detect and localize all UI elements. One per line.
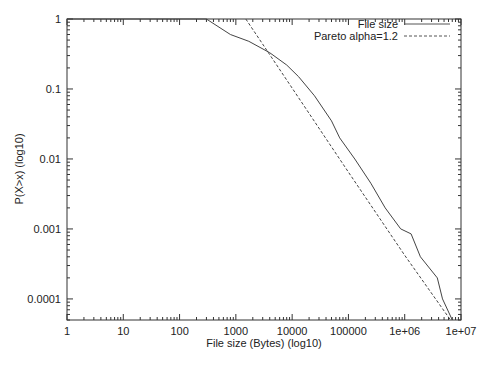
y-tick-label: 1 <box>55 13 61 25</box>
axis-ticks: 1101001000100001000001e+061e+0710.10.010… <box>27 13 476 337</box>
x-tick-label: 10000 <box>277 325 308 337</box>
y-tick-label: 0.0001 <box>27 293 61 305</box>
y-tick-label: 0.001 <box>33 223 61 235</box>
y-tick-label: 0.01 <box>40 153 61 165</box>
legend-file-size: File size <box>358 18 398 30</box>
legend-pareto: Pareto alpha=1.2 <box>314 30 398 42</box>
y-axis-label: P(X>x) (log10) <box>13 133 25 204</box>
series-group <box>67 19 452 320</box>
file-size-line <box>67 19 452 320</box>
pareto-line <box>246 19 451 320</box>
x-tick-label: 10 <box>117 325 129 337</box>
x-tick-label: 100 <box>170 325 188 337</box>
x-tick-label: 100000 <box>330 325 367 337</box>
legend: File size Pareto alpha=1.2 <box>314 18 450 42</box>
plot-frame <box>67 19 461 320</box>
chart: 1101001000100001000001e+061e+0710.10.010… <box>0 0 492 367</box>
x-tick-label: 1 <box>64 325 70 337</box>
x-tick-label: 1000 <box>224 325 248 337</box>
x-tick-label: 1e+06 <box>389 325 420 337</box>
x-axis-label: File size (Bytes) (log10) <box>206 337 322 349</box>
x-tick-label: 1e+07 <box>446 325 477 337</box>
y-tick-label: 0.1 <box>46 83 61 95</box>
